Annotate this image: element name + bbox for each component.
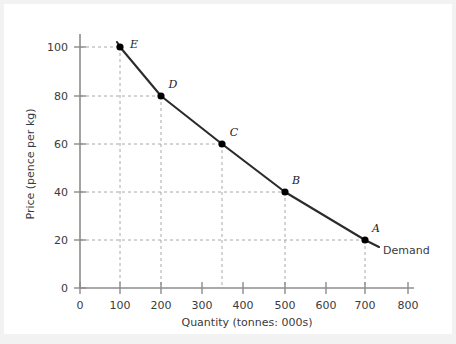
vertical-droplines (120, 47, 365, 288)
x-axis-title: Quantity (tonnes: 000s) (181, 316, 312, 329)
data-point-label-C: C (230, 126, 239, 139)
demand-curve-line (117, 42, 379, 247)
demand-curve-chart: 100 80 60 40 20 0 0 100 200 300 400 500 (4, 4, 452, 334)
x-axis-tick-labels: 0 100 200 300 400 500 600 700 800 (77, 299, 419, 312)
x-tick-label-0: 0 (77, 299, 84, 312)
data-point-B[interactable] (281, 188, 288, 195)
data-point-label-E: E (129, 38, 138, 51)
data-point-labels: E D C B A (129, 38, 380, 235)
data-point-label-D: D (168, 78, 178, 91)
x-tick-label-800: 800 (398, 299, 419, 312)
x-tick-label-200: 200 (151, 299, 172, 312)
demand-series-label: Demand (383, 244, 430, 257)
data-point-C[interactable] (218, 140, 225, 147)
y-tick-label-0: 0 (61, 282, 68, 295)
y-tick-label-20: 20 (54, 234, 68, 247)
y-tick-label-80: 80 (54, 90, 68, 103)
x-tick-label-500: 500 (275, 299, 296, 312)
data-point-E[interactable] (116, 43, 123, 50)
y-tick-label-60: 60 (54, 138, 68, 151)
x-tick-label-600: 600 (316, 299, 337, 312)
x-tick-label-300: 300 (192, 299, 213, 312)
y-tick-label-100: 100 (47, 41, 68, 54)
y-tick-label-40: 40 (54, 186, 68, 199)
y-axis-title: Price (pence per kg) (24, 108, 37, 219)
y-axis-tick-labels: 100 80 60 40 20 0 (47, 41, 68, 295)
data-point-A[interactable] (361, 236, 368, 243)
data-point-D[interactable] (157, 92, 164, 99)
chart-figure-card: 100 80 60 40 20 0 0 100 200 300 400 500 (4, 4, 452, 334)
data-point-label-B: B (291, 174, 300, 187)
x-tick-label-700: 700 (355, 299, 376, 312)
x-tick-label-400: 400 (233, 299, 254, 312)
data-point-label-A: A (371, 222, 380, 235)
x-tick-label-100: 100 (110, 299, 131, 312)
